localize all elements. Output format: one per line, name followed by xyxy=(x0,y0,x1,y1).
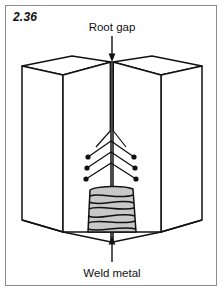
electrode-dot xyxy=(84,165,89,170)
electrode-dot xyxy=(132,165,137,170)
welding-joint-drawing xyxy=(0,0,224,293)
electrode-dot xyxy=(83,176,88,181)
root-gap-arrow xyxy=(109,36,116,62)
electrode-dot xyxy=(85,154,90,159)
root-gap-line xyxy=(110,62,113,131)
weld-bead-stack xyxy=(88,186,136,232)
electrode-dot xyxy=(131,154,136,159)
electrode-dot xyxy=(133,176,138,181)
figure-container: 2.36 Root gap Weld metal xyxy=(0,0,224,293)
